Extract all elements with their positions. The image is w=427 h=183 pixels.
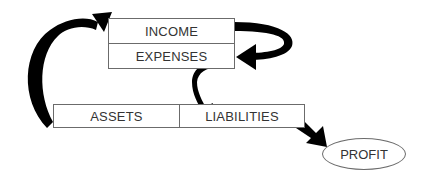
arrow-income-to-expenses (234, 22, 293, 70)
expenses-label: EXPENSES (136, 49, 208, 64)
assets-label: ASSETS (90, 109, 143, 124)
assets-box: ASSETS (53, 104, 180, 128)
profit-label: PROFIT (340, 147, 388, 162)
expenses-box: EXPENSES (108, 43, 235, 69)
liabilities-box: LIABILITIES (179, 104, 305, 128)
income-box: INCOME (108, 18, 235, 44)
liabilities-label: LIABILITIES (205, 109, 279, 124)
income-label: INCOME (145, 24, 198, 39)
profit-ellipse: PROFIT (322, 138, 406, 170)
